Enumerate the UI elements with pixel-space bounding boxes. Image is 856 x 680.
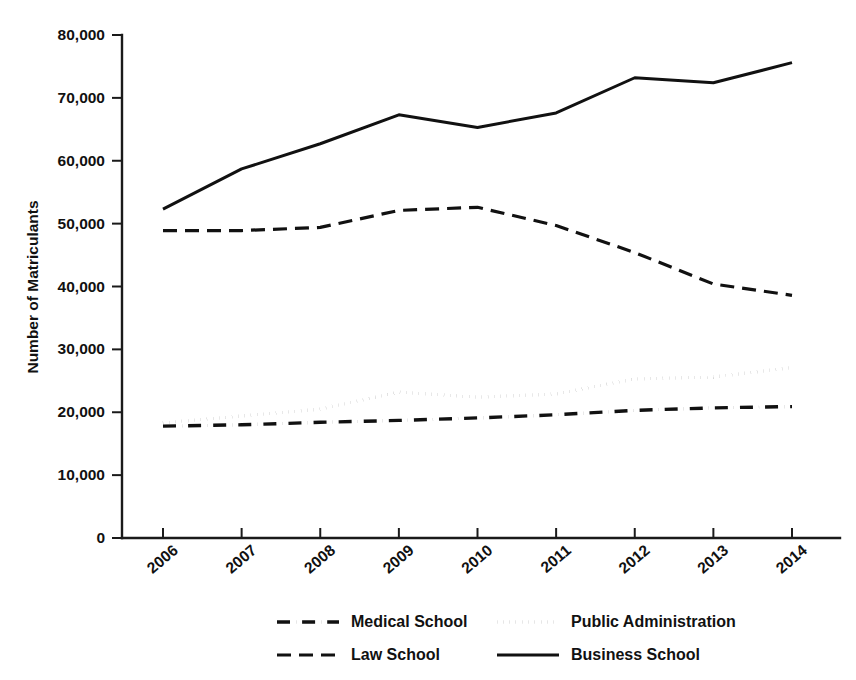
y-tick-label: 60,000 <box>58 152 105 169</box>
y-axis-title: Number of Matriculants <box>24 200 41 373</box>
legend-item-public-administration: Public Administration <box>497 613 736 630</box>
x-tick-label: 2010 <box>458 541 495 576</box>
y-tick-label: 80,000 <box>58 26 105 43</box>
x-tick-label: 2014 <box>773 541 811 576</box>
x-tick-label: 2013 <box>694 541 732 576</box>
series-line-public-administration <box>163 368 792 423</box>
legend-item-medical-school: Medical School <box>277 613 467 630</box>
x-axis-group: 200620072008200920102011201220132014 <box>122 528 840 576</box>
x-tick-label: 2009 <box>379 541 417 576</box>
y-tick-labels: 010,00020,00030,00040,00050,00060,00070,… <box>58 26 105 546</box>
series-line-business-school <box>163 63 792 209</box>
x-tick-label: 2012 <box>615 541 652 576</box>
legend-label: Business School <box>571 646 700 663</box>
y-tick-label: 10,000 <box>58 466 105 483</box>
y-tick-label: 20,000 <box>58 403 105 420</box>
x-tick-label: 2011 <box>537 541 574 576</box>
x-tick-label: 2006 <box>144 541 182 576</box>
y-tick-label: 30,000 <box>58 340 105 357</box>
x-tick-labels: 200620072008200920102011201220132014 <box>144 541 811 576</box>
series-group <box>163 63 792 426</box>
line-chart: 010,00020,00030,00040,00050,00060,00070,… <box>0 0 856 680</box>
legend-item-law-school: Law School <box>277 646 440 663</box>
y-tick-label: 40,000 <box>58 278 105 295</box>
legend-item-business-school: Business School <box>497 646 700 663</box>
y-axis-group: 010,00020,00030,00040,00050,00060,00070,… <box>24 26 122 546</box>
x-tick-label: 2007 <box>222 541 259 576</box>
x-tick-label: 2008 <box>301 541 339 576</box>
x-tick-marks <box>163 528 792 538</box>
legend-label: Law School <box>351 646 440 663</box>
legend-label: Public Administration <box>571 613 736 630</box>
y-tick-label: 70,000 <box>58 89 105 106</box>
chart-container: 010,00020,00030,00040,00050,00060,00070,… <box>0 0 856 680</box>
y-tick-marks <box>112 35 122 538</box>
series-line-law-school <box>163 207 792 295</box>
chart-legend: Medical SchoolPublic AdministrationLaw S… <box>277 613 736 663</box>
y-tick-label: 50,000 <box>58 215 105 232</box>
y-tick-label: 0 <box>96 529 105 546</box>
legend-label: Medical School <box>351 613 467 630</box>
